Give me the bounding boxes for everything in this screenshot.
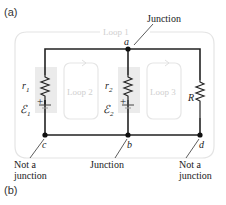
r2-label: r2 [105, 80, 112, 96]
battery2-plus: + [120, 96, 126, 107]
junction-bottom-label: Junction [90, 159, 124, 170]
node-d-label: d [199, 139, 204, 150]
leader-not-junction-right [186, 139, 199, 158]
emf1-label: ℰ1 [20, 104, 31, 120]
node-a-label: a [124, 36, 129, 47]
loop2-label: Loop 2 [67, 87, 93, 97]
junction-top-label: Junction [147, 13, 181, 24]
node-b-label: b [127, 139, 132, 150]
leader-junction-bottom [115, 139, 127, 158]
not-junction-right-label: Not a junction [179, 159, 212, 181]
panel-b-label: (b) [4, 184, 17, 196]
r1-label: r1 [22, 80, 29, 96]
not-junction-left-label: Not a junction [14, 159, 47, 181]
node-d [197, 132, 202, 137]
node-b [125, 132, 130, 137]
resistor-R-icon [196, 80, 204, 118]
node-c [42, 132, 47, 137]
emf2-label: ℰ2 [103, 104, 114, 120]
battery1-plus: + [37, 96, 43, 107]
leader-junction-top [134, 24, 153, 45]
panel-a-label: (a) [4, 6, 17, 18]
node-a [125, 46, 130, 51]
node-c-label: c [42, 139, 46, 150]
loop3-label: Loop 3 [150, 87, 176, 97]
R-label: R [188, 92, 194, 103]
